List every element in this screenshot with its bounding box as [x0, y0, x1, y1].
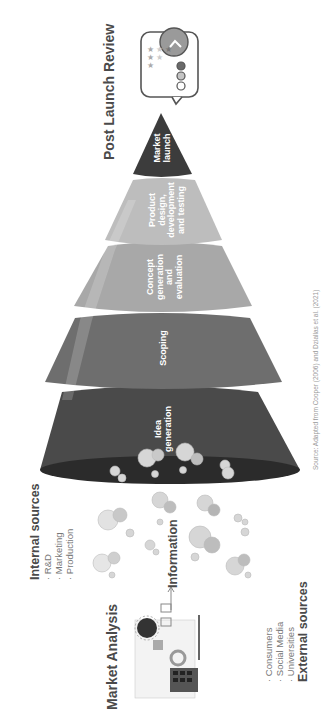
- svg-text:★: ★: [147, 61, 154, 70]
- internal-sources-title: Internal sources: [28, 483, 42, 580]
- list-item: · Consumers: [263, 581, 274, 682]
- list-item: · Production: [64, 483, 75, 580]
- stage-label-market-launch: Market launch: [153, 123, 177, 173]
- stage-label-idea-generation: Idea generation: [154, 399, 176, 459]
- external-sources-title: External sources: [296, 581, 310, 682]
- svg-text:★: ★: [156, 45, 163, 54]
- review-speech-bubble-icon: ★ ★★ ★★★: [141, 28, 198, 104]
- stage-label-concept-generation: Concept generation and evaluation: [146, 247, 186, 307]
- internal-sources-block: Internal sources · R&D · Marketing · Pro…: [28, 483, 75, 580]
- post-launch-review-title: Post Launch Review: [101, 24, 117, 160]
- svg-text:★: ★: [165, 45, 172, 54]
- information-label: Information: [166, 519, 180, 588]
- svg-text:★: ★: [147, 45, 154, 54]
- stage-label-product-design: Product design, development and testing: [148, 180, 188, 240]
- list-item: · Social Media: [274, 581, 285, 682]
- market-analysis-title: Market Analysis: [104, 604, 120, 710]
- stage-label-scoping: Scoping: [159, 323, 171, 373]
- market-analysis-illustration-icon: [135, 587, 200, 698]
- source-citation: Source: Adapted from Cooper (2006) and D…: [312, 290, 319, 470]
- svg-text:★: ★: [147, 53, 154, 62]
- list-item: · R&D: [42, 483, 53, 580]
- list-item: · Marketing: [53, 483, 64, 580]
- list-item: · Universities: [285, 581, 296, 682]
- svg-text:★: ★: [156, 53, 163, 62]
- external-sources-block: · Consumers · Social Media · Universitie…: [263, 581, 310, 682]
